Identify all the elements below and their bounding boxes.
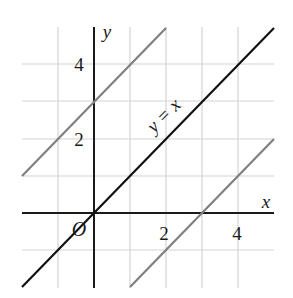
origin-label: O bbox=[72, 218, 86, 240]
y-tick-label-2: 2 bbox=[74, 129, 84, 150]
coordinate-plane-chart: 4 2 2 4 O x y y = x bbox=[0, 0, 293, 298]
x-tick-label-2: 2 bbox=[159, 223, 169, 244]
line-y-equals-x bbox=[22, 28, 274, 287]
y-axis-label: y bbox=[101, 21, 112, 42]
line-label-y-equals-x: y = x bbox=[141, 94, 185, 138]
y-tick-label-4: 4 bbox=[74, 54, 84, 75]
x-axis-label: x bbox=[261, 191, 271, 212]
x-tick-label-4: 4 bbox=[232, 223, 242, 244]
